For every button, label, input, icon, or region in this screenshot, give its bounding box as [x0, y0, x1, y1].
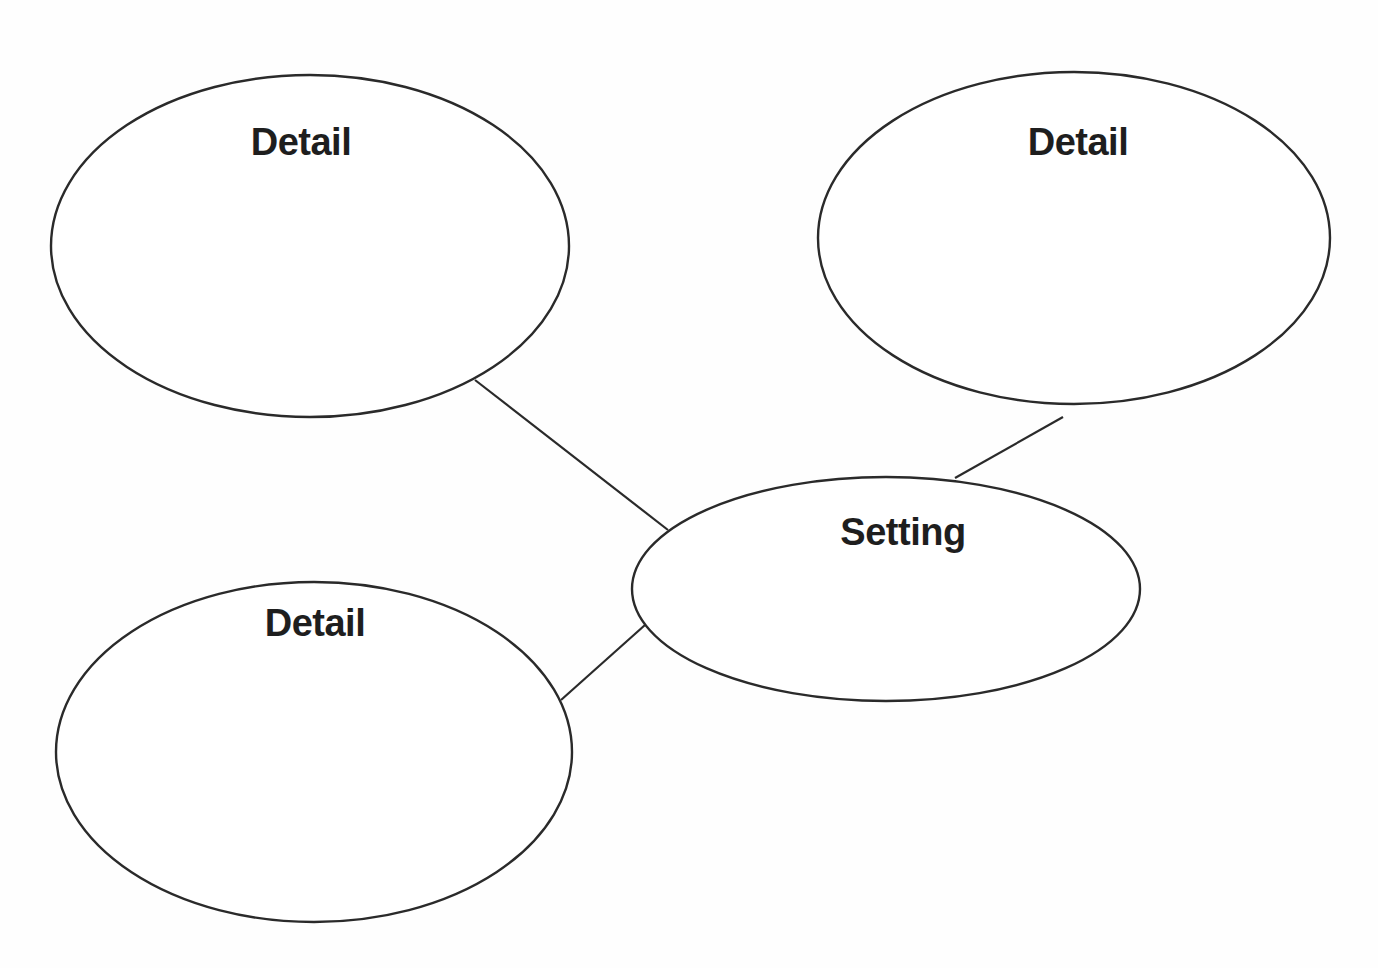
setting-node: Setting	[632, 477, 1140, 701]
detail-node-top-right: Detail	[818, 72, 1330, 404]
story-web-diagram: Detail Detail Detail Setting	[0, 0, 1378, 968]
detail-label-bottom-left: Detail	[265, 602, 365, 644]
detail-node-bottom-left: Detail	[56, 582, 572, 922]
connector-bottom-left-to-setting	[561, 625, 645, 700]
diagram-canvas: Detail Detail Detail Setting	[0, 0, 1378, 968]
detail-node-top-left: Detail	[51, 75, 569, 417]
detail-label-top-right: Detail	[1028, 121, 1128, 163]
setting-label: Setting	[840, 511, 965, 553]
detail-label-top-left: Detail	[251, 121, 351, 163]
connector-top-right-to-setting	[955, 417, 1063, 478]
connector-top-left-to-setting	[475, 380, 668, 530]
